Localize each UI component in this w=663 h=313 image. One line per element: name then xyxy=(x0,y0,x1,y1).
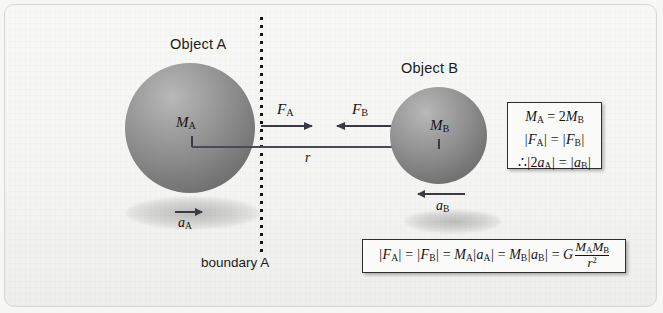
object-a-label: Object A xyxy=(170,36,226,52)
object-b-label: Object B xyxy=(401,60,458,76)
accel-b-label: aB xyxy=(436,198,449,214)
mass-ratio-equation-box: MA = 2MB |FA| = |FB| ∴|2aA| = |aB| xyxy=(507,102,602,169)
gravitation-law-equation-box: |FA| = |FB| = MA|aA| = MB|aB| = GMAMBr2 xyxy=(362,239,626,273)
boundary-dotted-line xyxy=(260,17,263,252)
accel-a-arrow xyxy=(175,211,202,213)
boundary-label: boundary A xyxy=(201,255,269,270)
equation-accel-relation: ∴|2aA| = |aB| xyxy=(508,153,601,176)
force-b-label: FB xyxy=(352,101,368,118)
object-a-shadow xyxy=(126,197,260,229)
separation-label: r xyxy=(305,150,310,166)
equation-mass-relation: MA = 2MB xyxy=(508,107,601,130)
physics-diagram-figure: Object A MA boundary A FA FB r aA Object… xyxy=(0,0,663,313)
equation-force-equality: |FA| = |FB| xyxy=(508,130,601,153)
force-b-arrow xyxy=(337,125,391,127)
accel-a-label: aA xyxy=(178,215,192,231)
mass-b-label: MB xyxy=(430,117,449,134)
force-a-arrow xyxy=(261,125,312,127)
mass-b-center-tick xyxy=(438,139,440,149)
force-a-label: FA xyxy=(277,101,294,118)
equation-newton-gravitation: |FA| = |FB| = MA|aA| = MB|aB| = GMAMBr2 xyxy=(379,241,609,270)
mass-a-label: MA xyxy=(176,114,196,131)
object-b-sphere xyxy=(390,87,487,184)
object-b-shadow xyxy=(405,210,501,233)
accel-b-arrow xyxy=(418,193,465,195)
